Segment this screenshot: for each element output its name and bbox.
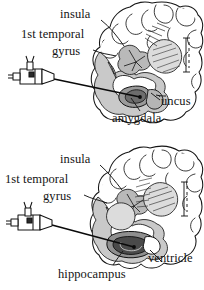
label-uncus-top: uncus [161,95,191,108]
label-amygdala-top: amygdala [112,112,161,125]
panel-hippocampus-target: insula 1st temporal gyrus ventricle hipp… [0,145,204,290]
label-insula-top: insula [60,8,90,21]
stereotactic-electrode-device [8,56,54,84]
stereotactic-electrode-placement-figure: insula 1st temporal gyrus uncus amygdala [0,0,204,290]
label-gyrus-top: gyrus [52,45,80,58]
panel-amygdala-target: insula 1st temporal gyrus uncus amygdala [0,0,204,145]
label-ventricle-bottom: ventricle [148,252,193,265]
basal-ganglia-mass [148,40,182,74]
stereotactic-electrode-device [6,202,52,230]
label-gyrus-bottom: gyrus [43,190,71,203]
label-insula-bottom: insula [60,153,90,166]
brain-section-amygdala-svg [0,0,204,145]
label-1st-temporal-top: 1st temporal [21,28,84,41]
label-hippocampus-bottom: hippocampus [58,268,126,281]
label-1st-temporal-bottom: 1st temporal [5,173,68,186]
